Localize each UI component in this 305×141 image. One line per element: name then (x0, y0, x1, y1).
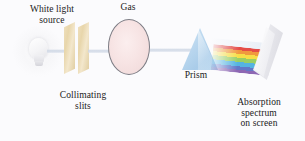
bulb-base (35, 61, 43, 66)
label-prism: Prism (176, 70, 216, 81)
absorption-spectrum-diagram: White light source Collimating slits Gas… (0, 0, 305, 141)
collimating-slit-left (64, 22, 75, 74)
label-white-light-source: White light source (10, 4, 94, 25)
label-absorption-spectrum-on-screen: Absorption spectrum on screen (218, 97, 300, 129)
collimating-slit-right (78, 22, 89, 74)
light-beam-collimated (88, 49, 110, 53)
label-gas: Gas (103, 2, 153, 13)
label-collimating-slits: Collimating slits (40, 90, 126, 111)
gas-cell (108, 19, 150, 75)
light-beam-transmitted (150, 48, 194, 52)
